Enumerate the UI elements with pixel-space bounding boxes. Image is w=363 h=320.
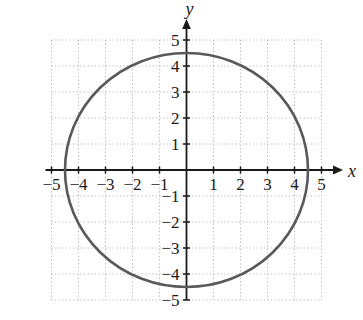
y-tick-label: 4 <box>171 57 180 76</box>
y-axis-arrowhead <box>182 19 191 29</box>
x-tick-label: −3 <box>96 175 114 194</box>
y-axis-label: y <box>184 0 194 19</box>
x-tick-label: −2 <box>123 175 141 194</box>
graph-canvas: −5−4−3−2−11234554321−1−2−3−4−5xy <box>0 0 363 320</box>
y-tick-label: −4 <box>161 265 180 284</box>
x-tick-label: 5 <box>317 175 326 194</box>
x-tick-label: −5 <box>42 175 60 194</box>
x-tick-label: 4 <box>290 175 299 194</box>
y-tick-label: −1 <box>161 187 179 206</box>
circle-graph-figure: −5−4−3−2−11234554321−1−2−3−4−5xy <box>0 0 363 320</box>
x-tick-label: 2 <box>236 175 245 194</box>
y-tick-label: −5 <box>161 291 179 310</box>
y-tick-label: 1 <box>171 135 180 154</box>
x-tick-label: 1 <box>209 175 218 194</box>
x-tick-label: −4 <box>69 175 88 194</box>
y-tick-label: 2 <box>171 109 180 128</box>
y-tick-label: 3 <box>171 83 180 102</box>
y-tick-label: −2 <box>161 213 179 232</box>
x-axis-label: x <box>347 161 356 181</box>
x-tick-label: 3 <box>263 175 272 194</box>
y-tick-label: 5 <box>171 31 180 50</box>
y-tick-label: −3 <box>161 239 179 258</box>
x-axis-arrowhead <box>333 166 343 175</box>
